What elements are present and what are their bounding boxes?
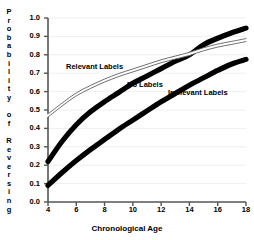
x-axis-tick-label: 10 [123, 206, 143, 214]
series-label-no-labels: No Labels [127, 80, 163, 89]
x-axis-tick-labels: 4681012141618 [0, 206, 254, 218]
x-axis-tick-label: 6 [66, 206, 86, 214]
series-label-irrelevant-labels: Irrelevant Labels [168, 88, 228, 97]
x-axis-tick-label: 14 [179, 206, 199, 214]
series-label-relevant-labels: Relevant Labels [66, 62, 123, 71]
data-series [48, 28, 246, 185]
x-axis-tick-label: 18 [236, 206, 254, 214]
chart-figure: ProbabilityofReversing 0.00.10.20.30.40.… [0, 0, 254, 240]
x-axis-tick-label: 8 [95, 206, 115, 214]
x-axis-tick-label: 16 [208, 206, 228, 214]
plot-area [0, 0, 254, 240]
x-axis-tick-label: 12 [151, 206, 171, 214]
x-axis-tick-label: 4 [38, 206, 58, 214]
x-axis-title: Chronological Age [0, 224, 254, 233]
